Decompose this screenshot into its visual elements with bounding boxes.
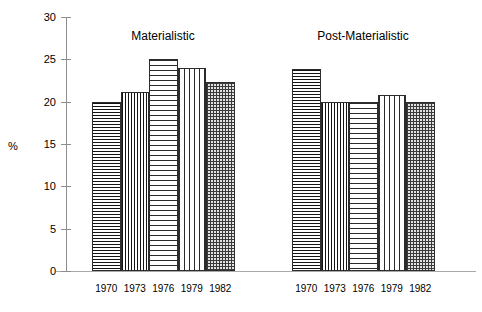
plot-area bbox=[0, 0, 482, 272]
bar bbox=[92, 102, 121, 271]
bar bbox=[321, 102, 350, 271]
bar bbox=[378, 95, 407, 271]
bar bbox=[349, 102, 378, 271]
bar bbox=[178, 68, 207, 271]
bar bbox=[121, 92, 150, 271]
bar bbox=[292, 69, 321, 271]
bar-chart-figure: % 051015202530 Materialistic Post-Materi… bbox=[0, 0, 482, 312]
x-tick-label: 1982 bbox=[402, 283, 439, 294]
bar bbox=[206, 82, 235, 271]
bar bbox=[149, 59, 178, 271]
x-tick-label: 1982 bbox=[202, 283, 239, 294]
bar bbox=[406, 102, 435, 271]
